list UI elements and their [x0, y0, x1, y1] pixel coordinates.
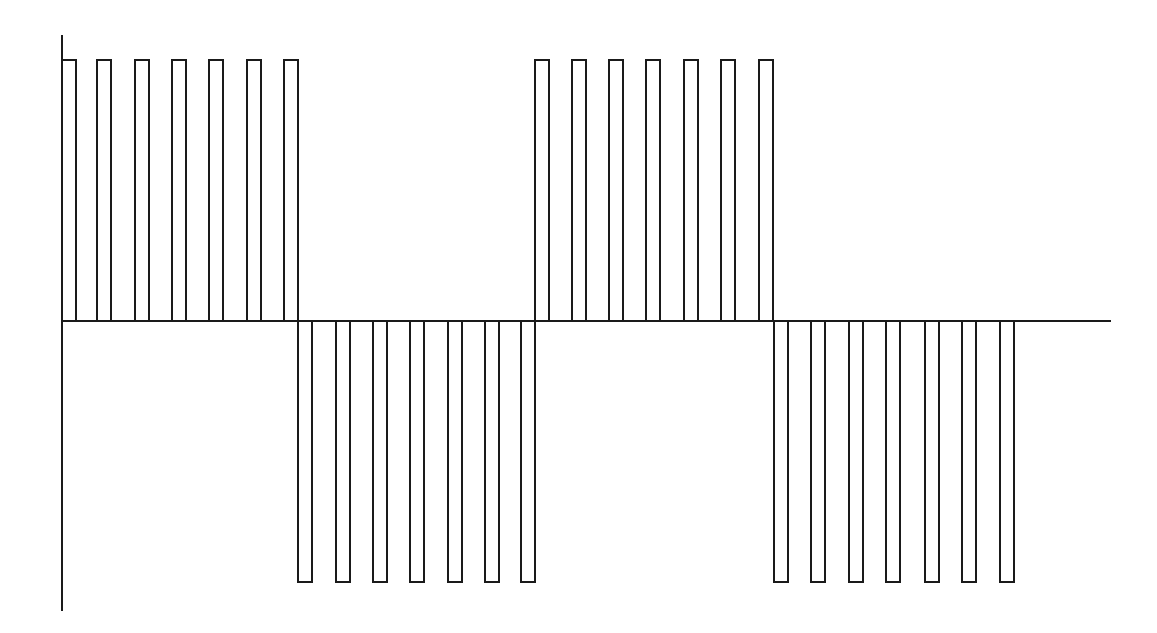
- negative-pulse: [521, 321, 535, 582]
- positive-pulse: [172, 60, 186, 321]
- negative-pulse: [925, 321, 939, 582]
- positive-pulse: [97, 60, 111, 321]
- positive-pulse: [284, 60, 298, 321]
- negative-pulse: [373, 321, 387, 582]
- negative-pulse: [410, 321, 424, 582]
- pulse-group-negative: [774, 321, 1014, 582]
- negative-pulse: [298, 321, 312, 582]
- positive-pulse: [609, 60, 623, 321]
- pulse-group-positive: [62, 60, 298, 321]
- positive-pulse: [209, 60, 223, 321]
- waveform-diagram: [0, 0, 1157, 633]
- positive-pulse: [759, 60, 773, 321]
- positive-pulse: [572, 60, 586, 321]
- positive-pulse: [247, 60, 261, 321]
- pulse-group-negative: [298, 321, 535, 582]
- negative-pulse: [849, 321, 863, 582]
- negative-pulse: [336, 321, 350, 582]
- positive-pulse: [535, 60, 549, 321]
- negative-pulse: [811, 321, 825, 582]
- pulse-group-positive: [535, 60, 773, 321]
- negative-pulse: [1000, 321, 1014, 582]
- positive-pulse: [135, 60, 149, 321]
- positive-pulse: [721, 60, 735, 321]
- negative-pulse: [485, 321, 499, 582]
- negative-pulse: [774, 321, 788, 582]
- positive-pulse: [684, 60, 698, 321]
- positive-pulse: [646, 60, 660, 321]
- negative-pulse: [448, 321, 462, 582]
- negative-pulse: [962, 321, 976, 582]
- negative-pulse: [886, 321, 900, 582]
- positive-pulse: [62, 60, 76, 321]
